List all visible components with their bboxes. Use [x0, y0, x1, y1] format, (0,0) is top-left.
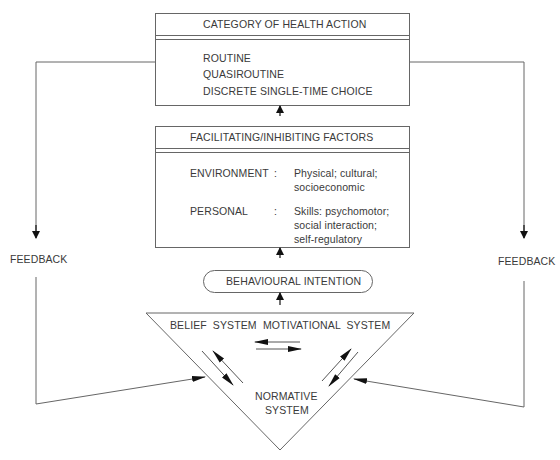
feedback-left-label: FEEDBACK — [10, 253, 67, 265]
category-item-quasiroutine: QUASIROUTINE — [203, 68, 284, 80]
factor-personal-label: PERSONAL — [190, 205, 248, 217]
factor-personal-line1: Skills: psychomotor; — [294, 205, 389, 217]
belief-system-label: BELIEF SYSTEM — [170, 319, 257, 331]
category-title: CATEGORY OF HEALTH ACTION — [203, 18, 366, 30]
feedback-right-label: FEEDBACK — [498, 255, 555, 267]
factor-personal-line2: social interaction; — [294, 219, 377, 231]
motivational-system-label: MOTIVATIONAL SYSTEM — [263, 319, 390, 331]
category-item-routine: ROUTINE — [203, 52, 251, 64]
factors-title: FACILITATING/INHIBITING FACTORS — [190, 131, 373, 143]
triangle — [146, 313, 414, 450]
intention-label: BEHAVIOURAL INTENTION — [226, 275, 361, 287]
factor-environment-line1: Physical; cultural; — [294, 167, 378, 179]
factor-personal-line3: self-regulatory — [294, 233, 362, 245]
category-item-discrete: DISCRETE SINGLE-TIME CHOICE — [203, 85, 373, 97]
factor-environment-line2: socioeconomic — [294, 181, 365, 193]
factor-personal-sep: : — [274, 205, 277, 217]
factor-environment-label: ENVIRONMENT — [190, 167, 269, 179]
normative-system-label-1: NORMATIVE — [255, 390, 318, 402]
normative-system-label-2: SYSTEM — [265, 404, 309, 416]
factor-environment-sep: : — [274, 167, 277, 179]
